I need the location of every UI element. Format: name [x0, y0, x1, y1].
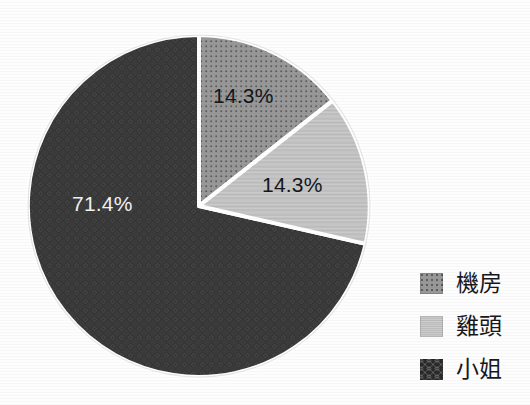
pie-chart-plot-area: 14.3% 14.3% 71.4%	[0, 0, 400, 405]
legend-swatch-dot-grid-icon	[420, 273, 443, 294]
legend-label-xiaojie: 小姐	[456, 358, 502, 381]
legend-item-jifang[interactable]: 機房	[420, 262, 528, 305]
chart-legend: 機房 雞頭 小姐	[420, 262, 528, 391]
legend-item-jitou[interactable]: 雞頭	[420, 305, 528, 348]
legend-swatch-diamond-icon	[420, 359, 443, 380]
legend-label-jifang: 機房	[456, 272, 502, 295]
legend-item-xiaojie[interactable]: 小姐	[420, 348, 528, 391]
pie-chart-figure: 14.3% 14.3% 71.4% 機房 雞頭 小姐	[0, 0, 530, 405]
legend-swatch-solid-light-icon	[420, 316, 443, 337]
legend-label-jitou: 雞頭	[456, 315, 502, 338]
pie-chart-svg	[0, 0, 400, 405]
